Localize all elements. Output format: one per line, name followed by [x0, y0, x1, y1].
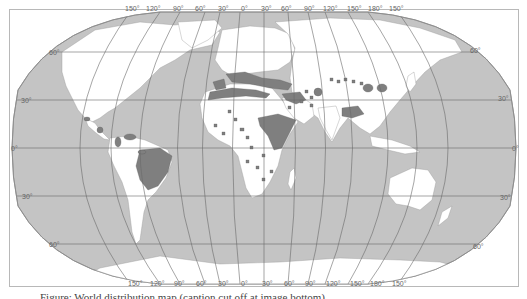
longitude-labels-top: 150° 120° 90° 60° 30° 0° 30° 60° 90° 120…	[125, 5, 404, 12]
highlight-mexico	[84, 117, 90, 121]
highlight-spot	[246, 136, 249, 139]
highlight-spot	[310, 104, 313, 107]
highlight-spot	[310, 96, 313, 99]
svg-text:60°: 60°	[49, 49, 60, 56]
highlight-spot	[250, 146, 253, 149]
highlight-spot	[305, 90, 308, 93]
svg-text:150°: 150°	[128, 280, 143, 287]
highlight-venezuela	[124, 134, 136, 140]
svg-text:0°: 0°	[241, 5, 248, 12]
svg-text:150°: 150°	[389, 5, 404, 12]
highlight-spot	[270, 170, 273, 173]
highlight-north-china-1	[363, 84, 373, 92]
svg-text:60°: 60°	[284, 280, 295, 287]
svg-text:120°: 120°	[146, 5, 161, 12]
highlight-spot	[330, 78, 333, 81]
highlight-spot	[240, 128, 244, 131]
highlight-spot	[288, 106, 291, 109]
svg-text:120°: 120°	[150, 280, 165, 287]
highlight-spot	[214, 124, 217, 127]
svg-text:120°: 120°	[326, 280, 341, 287]
svg-text:60°: 60°	[470, 47, 481, 54]
svg-text:180°: 180°	[370, 280, 385, 287]
svg-text:90°: 90°	[174, 280, 185, 287]
svg-text:60°: 60°	[49, 241, 60, 248]
svg-text:60°: 60°	[196, 280, 207, 287]
svg-text:30°: 30°	[500, 194, 511, 201]
svg-text:30°: 30°	[218, 280, 229, 287]
svg-text:30°: 30°	[218, 5, 229, 12]
svg-text:60°: 60°	[195, 5, 206, 12]
highlight-spot	[337, 80, 340, 83]
highlight-spot	[352, 80, 355, 83]
svg-text:30°: 30°	[261, 5, 272, 12]
svg-text:30°: 30°	[498, 95, 509, 102]
highlight-spot	[246, 160, 249, 163]
svg-text:90°: 90°	[304, 5, 315, 12]
highlight-peru	[138, 150, 146, 154]
highlight-spot	[360, 82, 363, 85]
highlight-spot	[228, 110, 231, 113]
svg-text:0°: 0°	[512, 145, 519, 152]
highlight-spot	[262, 154, 265, 157]
svg-text:30°: 30°	[262, 280, 273, 287]
highlight-central-asia	[314, 88, 322, 96]
highlight-spot	[222, 132, 225, 135]
svg-text:180°: 180°	[368, 5, 383, 12]
svg-text:0°: 0°	[11, 145, 18, 152]
svg-text:30°: 30°	[22, 193, 33, 200]
highlight-north-china-2	[377, 84, 387, 92]
world-map: 150° 120° 90° 60° 30° 0° 30° 60° 90° 120…	[0, 0, 527, 299]
svg-text:90°: 90°	[305, 280, 316, 287]
svg-text:150°: 150°	[125, 5, 140, 12]
highlight-colombia	[115, 137, 121, 147]
highlight-spot	[300, 100, 303, 103]
svg-text:30°: 30°	[21, 97, 32, 104]
svg-text:0°: 0°	[241, 280, 248, 287]
svg-text:150°: 150°	[350, 280, 365, 287]
highlight-spot	[234, 118, 237, 121]
figure-caption: Figure: World distribution map (caption …	[40, 291, 520, 299]
highlight-guatemala	[97, 127, 103, 133]
svg-text:120°: 120°	[323, 5, 338, 12]
svg-text:150°: 150°	[347, 5, 362, 12]
svg-text:60°: 60°	[281, 5, 292, 12]
svg-text:60°: 60°	[473, 243, 484, 250]
highlight-spot	[262, 178, 265, 181]
svg-text:90°: 90°	[173, 5, 184, 12]
svg-text:150°: 150°	[392, 280, 407, 287]
highlight-spot	[256, 166, 259, 169]
